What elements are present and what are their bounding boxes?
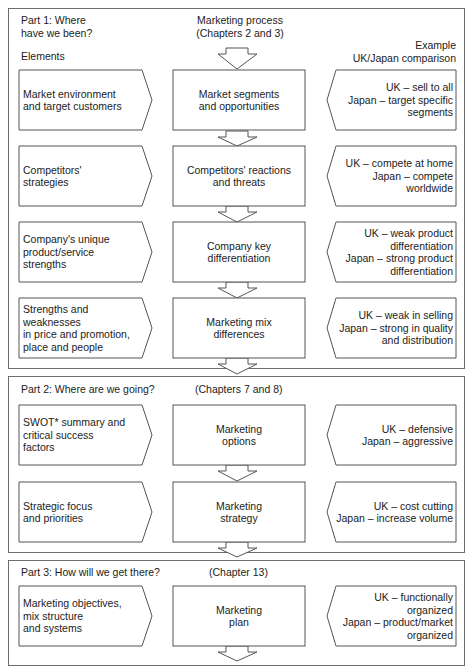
example-heading: Example UK/Japan comparison: [320, 39, 456, 64]
element-text: Competitors' strategies: [23, 146, 143, 206]
down-arrow-icon: [218, 465, 257, 481]
element-text: Strategic focus and priorities: [23, 482, 143, 542]
example-text: UK – defensive Japan – aggressive: [336, 405, 453, 465]
example-text: UK – weak product differentiation Japan …: [336, 222, 453, 282]
example-text: UK – functionally organized Japan – prod…: [336, 586, 453, 646]
down-arrow-icon: [218, 542, 257, 557]
process-text: Marketing mix differences: [173, 298, 305, 358]
example-text: UK – compete at home Japan – compete wor…: [336, 146, 453, 206]
example-text: UK – weak in selling Japan – strong in q…: [336, 298, 453, 358]
process-text: Market segments and opportunities: [173, 70, 305, 130]
part2-title: Part 2: Where are we going?: [21, 383, 155, 396]
process-text: Competitors' reactions and threats: [173, 146, 305, 206]
down-arrow-icon: [218, 48, 257, 69]
example-text: UK – cost cutting Japan – increase volum…: [336, 482, 453, 542]
down-arrow-icon: [218, 131, 257, 146]
example-text: UK – sell to all Japan – target specific…: [336, 70, 453, 130]
part1-title: Part 1: Where have we been?: [21, 14, 92, 39]
process-text: Company key differentiation: [173, 222, 305, 282]
down-arrow-icon: [218, 358, 257, 374]
element-text: Company's unique product/service strengt…: [23, 222, 143, 282]
down-arrow-icon: [218, 206, 257, 222]
process-text: Marketing plan: [173, 586, 305, 646]
part3-chapters: (Chapter 13): [209, 566, 268, 579]
process-text: Marketing options: [173, 405, 305, 465]
element-text: SWOT* summary and critical success facto…: [23, 405, 143, 465]
element-text: Market environment and target customers: [23, 70, 143, 130]
part2-chapters: (Chapters 7 and 8): [195, 383, 283, 396]
element-text: Marketing objectives, mix structure and …: [23, 586, 143, 646]
down-arrow-icon: [218, 282, 257, 298]
process-heading: Marketing process (Chapters 2 and 3): [190, 14, 290, 39]
down-arrow-icon: [218, 646, 257, 661]
process-text: Marketing strategy: [173, 482, 305, 542]
elements-heading: Elements: [21, 50, 65, 63]
element-text: Strengths and weaknesses in price and pr…: [23, 298, 148, 358]
part3-title: Part 3: How will we get there?: [21, 566, 160, 579]
